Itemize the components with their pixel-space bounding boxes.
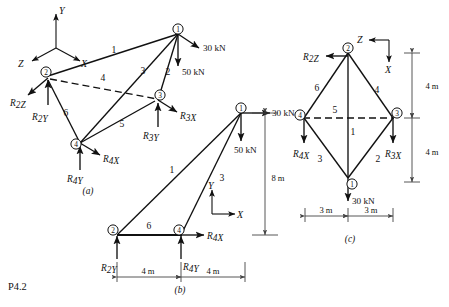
reaction-R2Z-arrow-a [28,78,48,95]
dimension-label-4m-b-right: 4 m [206,266,219,276]
reaction-label-R2Z-a: R2Z [9,98,26,110]
reaction-label-R4X-a: R4X [102,154,120,166]
node-label-4-a: 4 [74,140,78,149]
node-label-1-a: 1 [176,25,180,34]
figure-b-axes: Y X [208,180,244,220]
reaction-label-R4X-c: R4X [292,149,310,161]
member-4-c [348,53,393,118]
dimension-label-4m-c-bottom: 4 m [425,147,438,157]
member-label-3-a: 3 [141,65,146,76]
load-label-30kN-a: 30 kN [203,43,226,53]
truss-figure-svg: Y X Z 1 2 3 4 5 6 [0,0,449,307]
node-label-4-c: 4 [298,111,302,120]
reaction-label-R4X-b: R4X [206,231,224,243]
axis-label-y-b: Y [208,180,215,191]
figure-c-group: 1 2 3 4 5 6 Z X 30 kN R2Z [292,34,439,245]
figure-c-axes: Z X [357,34,392,75]
load-label-50kN-a: 50 kN [182,67,205,77]
dimension-label-8m-b: 8 m [271,173,284,183]
figure-a-loads: 30 kN 50 kN [178,34,226,77]
node-label-2-b: 2 [111,226,115,235]
node-label-1-c: 1 [350,180,354,189]
member-label-3-c: 3 [318,153,323,164]
axis-label-z-a: Z [18,58,24,69]
member-label-4-a: 4 [101,72,106,83]
member-3-b [181,113,241,235]
member-label-2-a: 2 [166,66,171,77]
dimension-label-4m-c-top: 4 m [425,81,438,91]
dimension-label-3m-c-left: 3 m [319,205,332,215]
dimension-label-3m-c-right: 3 m [364,205,377,215]
member-label-6-a: 6 [64,107,69,118]
member-3-c [304,118,348,178]
reaction-label-R3X-c: R3X [384,149,402,161]
reaction-label-R4Y-b: R4Y [182,262,200,274]
node-label-2-a: 2 [44,68,48,77]
reaction-label-R2Y-a: R2Y [31,112,49,124]
node-label-4-b: 4 [177,226,181,235]
member-label-1-b: 1 [170,164,175,175]
reaction-label-R3X-a: R3X [179,111,197,123]
member-label-5-a: 5 [120,118,125,129]
figure-root: Y X Z 1 2 3 4 5 6 [0,0,449,307]
reaction-label-R3Y-a: R3Y [142,131,160,143]
load-30kN-arrow-a [178,34,199,48]
reaction-R3X-arrow-a [158,100,177,112]
member-label-1-c: 1 [351,126,356,137]
member-label-6-b: 6 [147,220,152,231]
axis-label-z-c: Z [357,34,363,45]
node-label-3-a: 3 [158,91,162,100]
reaction-label-R2Z-c: R2Z [302,52,319,64]
node-label-2-c: 2 [346,44,350,53]
dimension-label-4m-b-left: 4 m [141,266,154,276]
member-label-1-a: 1 [112,44,117,55]
subfigure-caption-c: (c) [345,234,355,245]
reaction-R4X-arrow-a [80,143,100,155]
node-label-1-b: 1 [239,104,243,113]
member-label-2-c: 2 [376,153,381,164]
figure-a-group: Y X Z 1 2 3 4 5 6 [9,5,226,197]
axis-label-x-b: X [236,209,244,220]
figure-a-axes: Y X Z [18,5,88,69]
problem-id-label: P4.2 [8,281,27,292]
member-label-4-c: 4 [375,84,380,95]
reaction-label-R4Y-a: R4Y [66,174,84,186]
figure-b-group: 1 3 6 Y X 30 kN 50 kN R2Y [100,103,295,296]
subfigure-caption-b: (b) [175,285,186,296]
member-label-3-b: 3 [220,172,225,183]
reaction-label-R2Y-b: R2Y [100,263,118,275]
load-label-50kN-b: 50 kN [234,145,257,155]
figure-b-nodes: 1 2 4 [108,103,246,235]
member-label-5-c: 5 [333,104,338,115]
node-label-3-c: 3 [395,109,399,118]
axis-label-y-a: Y [59,5,66,16]
figure-b-loads: 30 kN 50 kN [234,108,295,155]
axis-label-x-c: X [384,64,392,75]
subfigure-caption-a: (a) [83,186,94,197]
member-label-6-c: 6 [315,82,320,93]
